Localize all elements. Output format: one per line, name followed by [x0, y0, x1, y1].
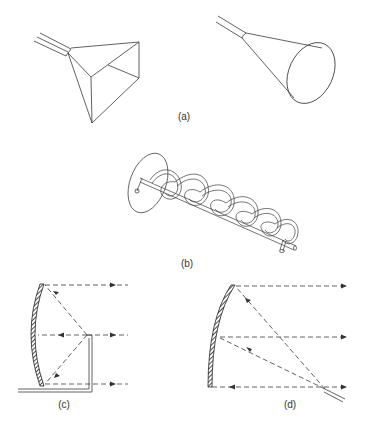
feed-line — [218, 16, 246, 33]
feed-pipe — [18, 335, 92, 392]
conical-horn — [216, 16, 344, 111]
helix-antenna — [120, 148, 298, 253]
panel-label-b: (b) — [181, 258, 193, 269]
feed-line — [216, 22, 242, 38]
panel-label-c: (c) — [58, 399, 70, 410]
ground-plane — [120, 148, 175, 219]
offset-fed-reflector — [208, 284, 348, 403]
panel-label-d: (d) — [284, 399, 296, 410]
pyramidal-horn — [34, 33, 139, 123]
front-fed-reflector — [18, 283, 128, 393]
reflector — [208, 285, 235, 387]
antenna-diagram — [0, 0, 374, 431]
panel-label-a: (a) — [178, 111, 190, 122]
dashed-rays — [212, 286, 348, 389]
